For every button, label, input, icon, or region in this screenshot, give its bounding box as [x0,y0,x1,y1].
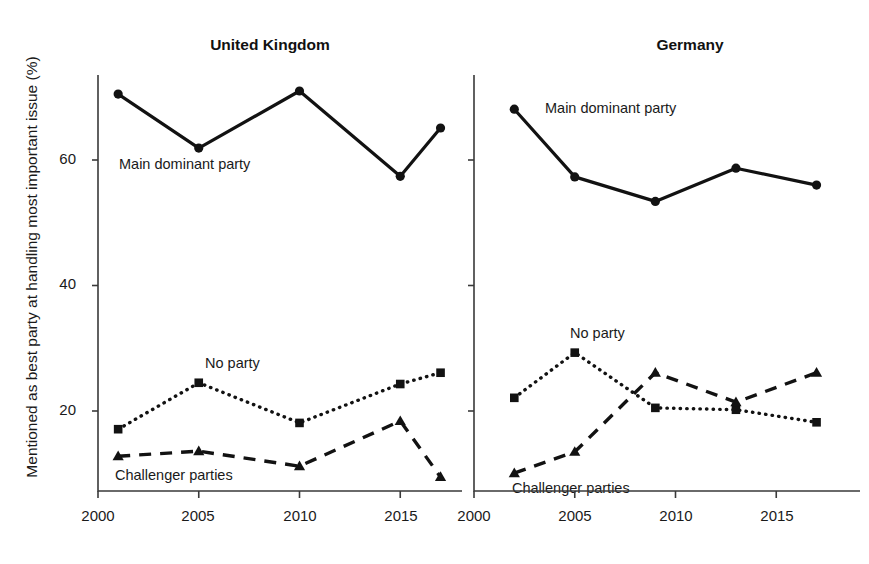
data-point-1-1-0 [510,394,519,403]
data-point-0-2-4 [435,471,446,481]
plot-canvas [0,0,869,564]
data-point-0-0-3 [396,172,405,181]
data-point-0-1-0 [114,425,123,434]
data-point-1-0-0 [510,105,519,114]
data-point-1-2-4 [811,367,822,377]
data-point-1-0-4 [812,181,821,190]
chart-figure: Mentioned as best party at handling most… [0,0,869,564]
data-point-0-1-2 [295,419,304,428]
panel-axis-1 [474,75,860,491]
data-point-0-1-4 [436,368,445,377]
data-point-0-0-1 [194,143,203,152]
data-point-0-2-3 [395,415,406,425]
series-line-0-0 [118,91,440,176]
data-point-0-1-3 [396,380,405,389]
data-point-1-1-1 [570,348,579,357]
data-point-0-1-1 [194,378,203,387]
data-point-1-1-2 [651,404,660,413]
data-point-1-0-3 [731,164,740,173]
data-point-0-0-2 [295,86,304,95]
data-point-1-0-1 [570,172,579,181]
data-point-1-2-2 [650,367,661,377]
data-point-1-1-4 [812,418,821,427]
series-line-1-1 [514,353,816,423]
data-point-0-0-4 [436,123,445,132]
data-point-1-0-2 [651,197,660,206]
series-line-0-1 [118,373,440,430]
series-line-1-2 [514,373,816,473]
series-line-0-2 [118,421,440,477]
data-point-0-0-0 [114,90,123,99]
series-line-1-0 [514,109,816,201]
data-point-1-1-3 [732,405,741,414]
